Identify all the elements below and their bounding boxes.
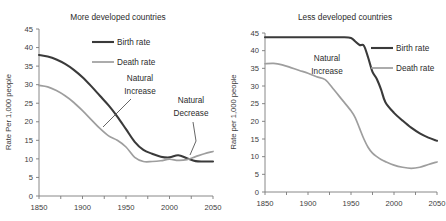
y-tick-label: 15 — [25, 136, 33, 145]
y-tick-label: 30 — [25, 80, 33, 89]
x-tick-label: 1900 — [74, 203, 91, 212]
legend-more-developed: Birth rateDeath rate — [92, 38, 156, 67]
y-tick-label: 20 — [25, 117, 33, 126]
legend-label-birth-rate: Birth rate — [117, 38, 151, 47]
y-tick-label: 35 — [25, 62, 33, 71]
y-tick-label: 5 — [29, 173, 33, 182]
annotation-natural-increase-line2: Increase — [311, 67, 343, 76]
x-tick-label: 1950 — [343, 199, 360, 208]
annotation-natural-increase-line1: Natural — [127, 74, 154, 83]
y-axis-ticks-more-developed: 051015202530354045 — [25, 25, 33, 201]
annotations-less-developed: NaturalIncrease — [311, 54, 343, 76]
x-tick-label: 1900 — [300, 199, 317, 208]
series-group-less-developed — [265, 37, 437, 168]
x-axis-ticks-less-developed: 18501900195020002050 — [257, 199, 446, 208]
y-axis-label-less-developed: Rate per 1,000 people — [229, 74, 238, 149]
y-tick-label: 45 — [25, 25, 33, 34]
y-tick-label: 25 — [251, 99, 259, 108]
y-tick-label: 5 — [255, 170, 259, 179]
x-tick-label: 2050 — [429, 199, 446, 208]
legend-label-death-rate: Death rate — [117, 58, 156, 67]
x-tick-label: 1850 — [257, 199, 274, 208]
page-title-more-developed: More developed countries — [70, 12, 165, 22]
annotation-natural-decrease-line1: Natural — [178, 96, 205, 105]
chart-panel-more-developed: More developed countries Rate Per 1,000 … — [0, 0, 223, 221]
x-tick-label: 2050 — [205, 203, 222, 212]
legend-less-developed: Birth rateDeath rate — [371, 44, 435, 73]
demographic-transition-figure: More developed countries Rate Per 1,000 … — [0, 0, 446, 221]
x-tick-label: 1850 — [31, 203, 48, 212]
chart-svg-more-developed: More developed countries Rate Per 1,000 … — [0, 0, 223, 221]
y-tick-label: 20 — [251, 117, 259, 126]
y-tick-label: 40 — [25, 43, 33, 52]
annotation-natural-increase-line2: Increase — [124, 87, 156, 96]
legend-label-death-rate: Death rate — [396, 64, 435, 73]
legend-label-birth-rate: Birth rate — [396, 44, 430, 53]
x-tick-label: 2000 — [161, 203, 178, 212]
y-tick-label: 10 — [25, 155, 33, 164]
x-tick-label: 1950 — [118, 203, 135, 212]
page-title-less-developed: Less developed countries — [298, 12, 392, 22]
y-tick-label: 25 — [25, 99, 33, 108]
x-axis-ticks-more-developed: 18501900195020002050 — [31, 203, 222, 212]
annotation-natural-increase-line1: Natural — [314, 54, 341, 63]
y-tick-label: 45 — [251, 29, 259, 38]
y-tick-label: 40 — [251, 46, 259, 55]
axis-lines-less-developed — [262, 33, 437, 195]
y-tick-label: 30 — [251, 82, 259, 91]
y-axis-ticks-less-developed: 051015202530354045 — [251, 29, 259, 197]
chart-panel-less-developed: Less developed countries Rate per 1,000 … — [223, 0, 446, 221]
series-line-death-rate — [265, 63, 437, 168]
annotation-leader-natural-decrease — [190, 122, 196, 155]
chart-svg-less-developed: Less developed countries Rate per 1,000 … — [223, 0, 446, 221]
x-tick-label: 2000 — [386, 199, 403, 208]
y-tick-label: 10 — [251, 152, 259, 161]
y-tick-label: 35 — [251, 64, 259, 73]
annotation-natural-decrease-line2: Decrease — [173, 109, 208, 118]
y-tick-label: 0 — [29, 192, 33, 201]
annotations-more-developed: NaturalIncreaseNaturalDecrease — [103, 74, 209, 155]
y-tick-label: 0 — [255, 188, 259, 197]
y-tick-label: 15 — [251, 135, 259, 144]
y-axis-label-more-developed: Rate Per 1,000 people — [4, 74, 13, 150]
